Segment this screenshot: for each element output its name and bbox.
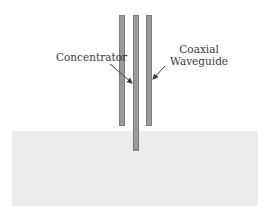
annotation-arrows <box>0 0 273 221</box>
concentrator-arrow <box>110 64 132 83</box>
coaxial-arrow <box>153 66 165 79</box>
